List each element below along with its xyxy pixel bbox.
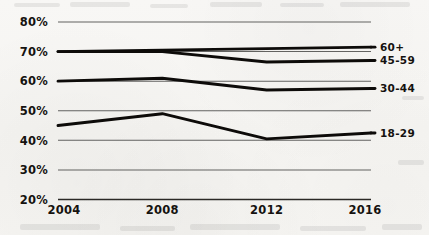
paper-specks — [14, 2, 424, 231]
y-tick-label: 60% — [20, 74, 48, 88]
y-tick-label: 50% — [20, 104, 48, 118]
legend-label-18-29: 18-29 — [380, 127, 415, 139]
y-tick-label: 30% — [20, 163, 48, 177]
x-tick-label: 2008 — [146, 203, 179, 217]
y-tick-label: 40% — [20, 134, 48, 148]
x-tick-label: 2016 — [348, 203, 381, 217]
legend-label-30-44: 30-44 — [380, 82, 415, 94]
legend-label-45-59: 45-59 — [380, 54, 415, 66]
x-tick-label: 2012 — [250, 203, 283, 217]
x-axis-tick-labels: 2004200820122016 — [47, 203, 381, 217]
data-line-18-29 — [58, 114, 371, 139]
line-chart: 80%70%60%50%40%30%20% 2004200820122016 6… — [0, 0, 429, 235]
legend-label-60-: 60+ — [380, 41, 404, 53]
y-tick-label: 70% — [20, 45, 48, 59]
data-line-30-44 — [58, 78, 371, 90]
y-tick-label: 20% — [20, 193, 48, 207]
y-axis-tick-labels: 80%70%60%50%40%30%20% — [20, 15, 48, 207]
chart-canvas: 80%70%60%50%40%30%20% 2004200820122016 6… — [0, 0, 429, 235]
chart-legend: 60+45-5930-4418-29 — [371, 41, 415, 139]
y-tick-label: 80% — [20, 15, 48, 29]
data-line-45-59 — [58, 52, 371, 62]
data-series-lines — [58, 47, 371, 139]
x-tick-label: 2004 — [47, 203, 80, 217]
